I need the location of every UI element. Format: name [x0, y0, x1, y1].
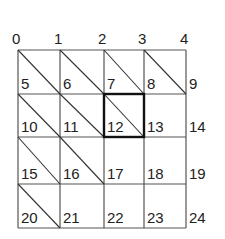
node-label: 8 — [147, 75, 155, 92]
diagonal-lines — [18, 50, 186, 228]
node-label: 2 — [98, 30, 106, 47]
node-label: 21 — [63, 209, 80, 226]
node-label: 18 — [147, 165, 164, 182]
node-label: 10 — [21, 118, 38, 135]
node-label: 4 — [180, 30, 188, 47]
node-label: 9 — [189, 75, 197, 92]
node-label: 6 — [63, 75, 71, 92]
node-label: 19 — [189, 165, 206, 182]
node-label: 23 — [147, 209, 164, 226]
node-label: 3 — [138, 30, 146, 47]
node-label: 16 — [63, 165, 80, 182]
node-label: 13 — [147, 118, 164, 135]
node-label: 14 — [189, 118, 206, 135]
node-label: 24 — [189, 209, 206, 226]
node-labels: 0123456789101112131415161718192021222324 — [12, 30, 206, 226]
node-label: 22 — [107, 209, 124, 226]
node-label: 0 — [12, 30, 20, 47]
node-label: 11 — [63, 118, 79, 135]
node-label: 12 — [107, 118, 124, 135]
node-label: 17 — [107, 165, 124, 182]
lattice-diagram: 0123456789101112131415161718192021222324 — [0, 0, 225, 239]
node-label: 1 — [54, 30, 62, 47]
node-label: 5 — [21, 75, 29, 92]
node-label: 7 — [107, 75, 115, 92]
node-label: 20 — [21, 209, 38, 226]
node-label: 15 — [21, 165, 38, 182]
